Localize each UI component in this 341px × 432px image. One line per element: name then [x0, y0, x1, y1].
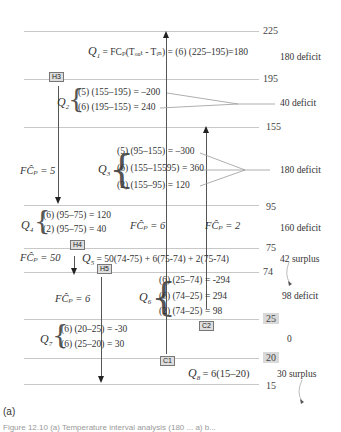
q2-status: 40 deficit — [280, 98, 316, 108]
q3-line-2: (6) (155–15595) = 360 — [117, 163, 204, 173]
figure-caption: Figure 12.10 (a) Temperature interval an… — [3, 423, 216, 432]
q4-line-2: (2) (95–75) = 40 — [43, 224, 106, 234]
q5-formula: = 50(74-75) + 6(75-74) + 2(75-74) — [97, 254, 229, 264]
q6-symbol: Q6 — [139, 290, 151, 306]
arrow-up-c1 — [163, 31, 169, 38]
q5-status: 42 surplus — [280, 254, 319, 264]
q6-line-3: (2) (74–25) = 98 — [159, 306, 222, 316]
q1-formula: = FCₚ(Tₒᵤₜ - Tᵢₙ) = (6) (225–195)=180 — [103, 47, 248, 57]
subfigure-label: (a) — [3, 406, 15, 417]
q4-line-1: (6) (95–75) = 120 — [43, 210, 111, 220]
fcp-c2: FĈₚ = 2 — [205, 219, 240, 231]
q4-status: 160 deficit — [280, 223, 321, 233]
q6-line-2: (6) (74–25) = 294 — [159, 291, 227, 301]
q7-line-2: (6) (25–20) = 30 — [61, 339, 124, 349]
q7-status: 0 — [287, 334, 292, 344]
stream-tag-h4: H4 — [70, 240, 85, 250]
fcp-h4: FĈₚ = 50 — [20, 251, 60, 263]
q5-equation: Q5 = 50(74-75) + 6(75-74) + 2(75-74) — [82, 251, 229, 267]
q1-equation: Q1 = FCₚ(Tₒᵤₜ - Tᵢₙ) = (6) (225–195)=180 — [88, 44, 248, 60]
q6-status: 98 deficit — [282, 291, 318, 301]
q5-symbol: Q5 — [82, 251, 94, 265]
q3-line-3: (2) (155–95) = 120 — [117, 180, 190, 190]
q1-symbol: Q1 — [88, 44, 100, 58]
arrow-down-h4 — [71, 268, 77, 275]
q3-status: 180 deficit — [280, 165, 321, 175]
stream-tag-c2: C2 — [199, 321, 214, 331]
fcp-c1: FĈₚ = 6 — [130, 219, 165, 231]
stream-tag-c1: C1 — [160, 356, 175, 366]
q1-status: 180 deficit — [280, 52, 321, 62]
arrow-up-c2 — [203, 126, 209, 133]
q7-symbol: Q7 — [40, 332, 52, 348]
stream-tag-h3: H3 — [49, 72, 64, 82]
q4-symbol: Q4 — [21, 218, 33, 234]
q3-line-1: (5) (95–155) = –300 — [117, 146, 194, 156]
q2-line-2: (6) (195–155) = 240 — [78, 102, 155, 112]
fcp-h5: FĈₚ = 6 — [55, 292, 90, 304]
arrow-down-h5 — [98, 376, 104, 383]
q6-line-1: (6) (25–74) = -294 — [159, 275, 230, 285]
q2-line-1: (5) (155–195) = –200 — [78, 87, 160, 97]
fcp-h3: FĈₚ = 5 — [20, 164, 55, 176]
q7-line-1: (6) (20–25) = -30 — [61, 324, 127, 334]
q8-symbol: Q8 — [188, 366, 200, 380]
q8-equation: Q8 = 6(15–20) — [188, 366, 250, 382]
q8-status: 30 surplus — [277, 369, 316, 379]
arrow-down-h3 — [55, 197, 61, 204]
q8-formula: = 6(15–20) — [203, 368, 250, 379]
